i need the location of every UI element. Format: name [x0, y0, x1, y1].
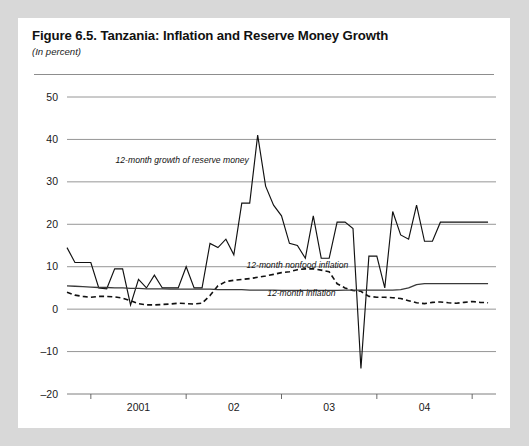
- y-tick-label: 50: [46, 91, 58, 103]
- series-annotations: 12-month growth of reserve money12-month…: [116, 155, 349, 298]
- gridlines-group: [67, 97, 496, 394]
- y-tick-label: 40: [46, 133, 58, 145]
- series-group: [67, 135, 488, 368]
- y-tick-label: 10: [46, 260, 58, 272]
- annotation-nonfood-inflation: 12-month nonfood inflation: [247, 260, 349, 270]
- x-tick-label: 02: [228, 401, 240, 413]
- x-axis-tick-labels: 2001020304: [127, 401, 431, 413]
- y-tick-label: 20: [46, 218, 58, 230]
- y-tick-label: –20: [40, 388, 58, 400]
- series-line-12-month-growth-of-reserve-money: [67, 135, 488, 368]
- y-axis-tick-labels: –20–1001020304050: [40, 91, 58, 400]
- axes-group: [91, 394, 472, 399]
- y-tick-label: –10: [40, 345, 58, 357]
- y-tick-label: 30: [46, 175, 58, 187]
- x-tick-label: 04: [419, 401, 431, 413]
- figure-card: Figure 6.5. Tanzania: Inflation and Rese…: [18, 18, 510, 428]
- chart-canvas: –20–1001020304050 2001020304 12-month gr…: [18, 18, 510, 428]
- x-tick-label: 2001: [127, 401, 151, 413]
- annotation-inflation: 12-month inflation: [267, 288, 336, 298]
- series-line-12-month-nonfood-inflation: [67, 269, 488, 305]
- x-tick-label: 03: [323, 401, 335, 413]
- y-tick-label: 0: [52, 303, 58, 315]
- annotation-reserve-money: 12-month growth of reserve money: [116, 155, 250, 165]
